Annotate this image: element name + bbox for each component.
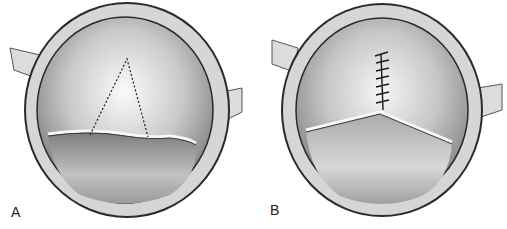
valve-illustration-b bbox=[254, 0, 507, 229]
panel-label-a: A bbox=[11, 204, 20, 220]
valve-illustration-a bbox=[0, 0, 254, 229]
panel-b: B bbox=[254, 0, 507, 229]
panel-a: A bbox=[0, 0, 254, 229]
panel-label-b: B bbox=[270, 202, 279, 218]
